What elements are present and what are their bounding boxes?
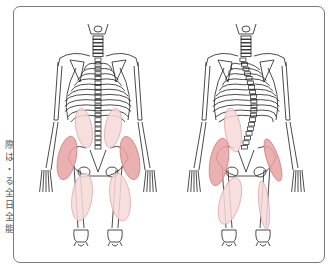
skeleton-right bbox=[188, 24, 305, 246]
muscle-left-thigh-right bbox=[107, 172, 133, 222]
skeleton-left bbox=[40, 24, 157, 246]
muscle-left-hip-outer-left bbox=[54, 135, 81, 182]
muscle-right-thigh-right bbox=[257, 181, 272, 230]
muscle-right-hip-outer-left bbox=[206, 137, 232, 187]
skeleton-figure bbox=[0, 0, 332, 269]
muscle-left-thigh-left bbox=[69, 172, 95, 222]
